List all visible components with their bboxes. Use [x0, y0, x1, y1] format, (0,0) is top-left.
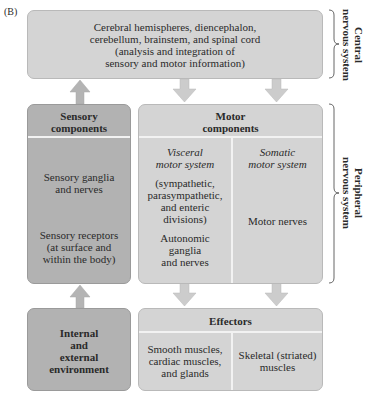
central-label-line-1: Central	[353, 5, 365, 85]
peripheral-nervous-system-label: Peripheral nervous system	[339, 153, 365, 233]
peripheral-label-line-1: Peripheral	[353, 153, 365, 233]
peripheral-label-line-2: nervous system	[341, 153, 353, 233]
peripheral-bracket-icon	[0, 0, 373, 402]
central-label-line-2: nervous system	[341, 5, 353, 85]
central-nervous-system-label: Central nervous system	[339, 5, 365, 85]
